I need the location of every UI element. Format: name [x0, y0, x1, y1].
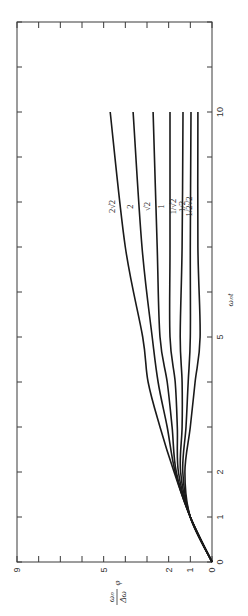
y-axis-label-denominator: Δω [118, 591, 128, 604]
x-tick-label: 1 [215, 514, 225, 519]
y-tick-label: 9 [12, 567, 22, 572]
x-tick-label: 0 [215, 559, 225, 564]
y-axis-label: ωₙ Δω φ [106, 580, 128, 605]
axis-tick-labels: 01251001259 [12, 107, 225, 573]
y-tick-label: 5 [99, 567, 109, 572]
x-tick-label: 2 [215, 469, 225, 474]
curve-label: 1/2√2 [184, 197, 194, 217]
curve-label: √2 [142, 202, 152, 211]
curve-label: 2√2 [107, 200, 117, 213]
x-tick-label: 5 [215, 334, 225, 339]
y-axis-label-variable: φ [112, 580, 122, 585]
curve-label: 1 [156, 204, 166, 208]
curve-0 [110, 112, 212, 562]
y-tick-label: 1 [185, 567, 195, 572]
y-tick-label: 2 [164, 567, 174, 572]
curve-label: 2 [125, 204, 135, 208]
x-tick-label: 10 [215, 107, 225, 117]
x-axis-label: ωₙt [225, 293, 235, 306]
data-curves [110, 112, 212, 562]
y-tick-label: 0 [207, 567, 217, 572]
y-axis-label-numerator: ωₙ [106, 592, 116, 602]
chart: 01251001259 2√22√211/√21/21/2√2 ωₙt ωₙ Δ… [0, 0, 248, 616]
